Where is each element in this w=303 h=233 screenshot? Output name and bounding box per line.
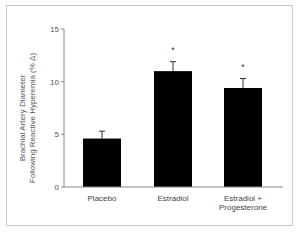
bar-group: * bbox=[154, 45, 192, 187]
category-label: Placebo bbox=[88, 194, 117, 203]
bar bbox=[224, 88, 262, 187]
bar-chart: 051015 Brachial Artery DiameterFollowing… bbox=[0, 0, 303, 233]
y-axis: 051015 bbox=[50, 25, 64, 192]
bar-group bbox=[83, 131, 121, 187]
category-label: Progesterone bbox=[219, 203, 268, 212]
category-labels: PlaceboEstradiolEstradiol +Progesterone bbox=[88, 194, 268, 212]
y-tick-label: 10 bbox=[50, 78, 59, 87]
y-tick-label: 5 bbox=[55, 130, 60, 139]
bars: ** bbox=[83, 45, 262, 187]
category-label: Estradiol + bbox=[224, 194, 262, 203]
bar bbox=[83, 139, 121, 187]
y-axis-label-line: Following Reactive Hyperemia (% Δ) bbox=[28, 53, 37, 184]
y-axis-label: Brachial Artery DiameterFollowing Reacti… bbox=[18, 53, 37, 184]
bar bbox=[154, 71, 192, 187]
y-tick-label: 15 bbox=[50, 25, 59, 34]
y-axis-label-line: Brachial Artery Diameter bbox=[18, 74, 27, 161]
y-tick-label: 0 bbox=[55, 183, 60, 192]
category-label: Estradiol bbox=[157, 194, 188, 203]
bar-group: * bbox=[224, 62, 262, 187]
significance-marker: * bbox=[171, 45, 175, 55]
significance-marker: * bbox=[241, 62, 245, 72]
